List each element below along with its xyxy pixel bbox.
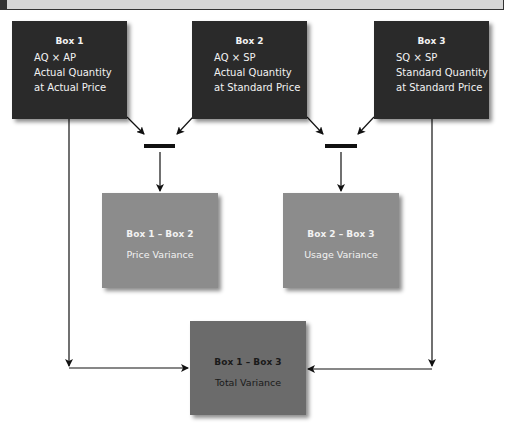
total-variance-title: Box 1 – Box 3 [190, 357, 306, 367]
box-3-formula: SQ × SP [396, 50, 489, 65]
box-3-line2: at Standard Price [396, 80, 489, 95]
usage-variance-label: Usage Variance [283, 247, 399, 262]
box-2: Box 2 AQ × SP Actual Quantity at Standar… [192, 21, 307, 119]
arrow-box2-to-minus2 [307, 117, 323, 134]
box-2-line2: at Standard Price [214, 80, 307, 95]
box-2-formula: AQ × SP [214, 50, 307, 65]
box-3-title: Box 3 [374, 36, 489, 46]
usage-variance-box: Box 2 – Box 3 Usage Variance [283, 193, 399, 288]
box-1-formula: AQ × AP [34, 50, 127, 65]
price-variance-box: Box 1 – Box 2 Price Variance [102, 193, 218, 288]
arrow-box2-to-minus1 [177, 117, 193, 134]
box-1: Box 1 AQ × AP Actual Quantity at Actual … [12, 21, 127, 119]
total-variance-label: Total Variance [190, 375, 306, 390]
total-variance-box: Box 1 – Box 3 Total Variance [190, 321, 306, 415]
box-3-line1: Standard Quantity [396, 65, 489, 80]
arrow-box3-to-minus2 [358, 117, 374, 134]
box-1-title: Box 1 [12, 36, 127, 46]
arrow-box1-to-minus1 [127, 117, 144, 134]
box-1-line2: at Actual Price [34, 80, 127, 95]
box-2-line1: Actual Quantity [214, 65, 307, 80]
usage-variance-title: Box 2 – Box 3 [283, 229, 399, 239]
box-1-line1: Actual Quantity [34, 65, 127, 80]
price-variance-label: Price Variance [102, 247, 218, 262]
minus-sign-2 [325, 144, 357, 148]
box-2-title: Box 2 [192, 36, 307, 46]
box-3: Box 3 SQ × SP Standard Quantity at Stand… [374, 21, 489, 119]
price-variance-title: Box 1 – Box 2 [102, 229, 218, 239]
minus-sign-1 [144, 144, 175, 148]
